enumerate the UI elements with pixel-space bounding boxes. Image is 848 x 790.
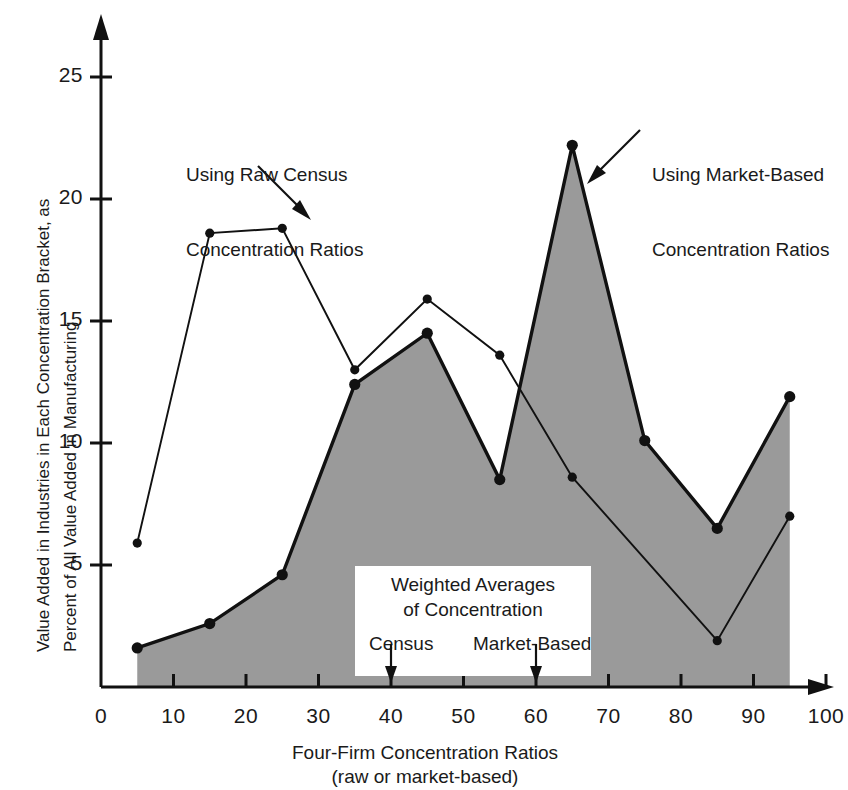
inset-marker-label-market: Market-Based [473,633,591,655]
inset-title-line2: of Concentration [355,597,591,622]
x-tick-label-100: 100 [796,704,848,728]
market-annotation-line1: Using Market-Based [652,162,829,187]
data-point [713,636,722,645]
data-point [784,391,795,402]
census-annotation-line1: Using Raw Census [186,162,363,187]
data-point [785,512,794,521]
y-tick-label-25: 25 [39,63,83,87]
y-tick-label-20: 20 [39,185,83,209]
y-tick-label-10: 10 [39,429,83,453]
data-point [277,569,288,580]
x-tick-label-70: 70 [579,704,639,728]
x-tick-label-90: 90 [724,704,784,728]
market-annotation-arrow [587,130,640,184]
data-point [712,523,723,534]
y-tick-label-5: 5 [39,551,83,575]
market-annotation: Using Market-Based Concentration Ratios [652,112,829,312]
inset-title-line1: Weighted Averages [355,572,591,597]
data-point [495,351,504,360]
data-point [349,379,360,390]
data-point [132,642,143,653]
census-annotation-line2: Concentration Ratios [186,237,363,262]
data-point [568,473,577,482]
data-point [639,435,650,446]
data-point [133,538,142,547]
chart-figure: Value Added in Industries in Each Concen… [0,0,848,790]
x-tick-label-0: 0 [71,704,131,728]
x-axis-subtitle: (raw or market-based) [180,766,670,788]
inset-marker-label-census: Census [369,633,433,655]
market-annotation-line2: Concentration Ratios [652,237,829,262]
x-tick-label-20: 20 [216,704,276,728]
data-point [204,618,215,629]
x-tick-label-50: 50 [434,704,494,728]
data-point [350,365,359,374]
data-point [423,294,432,303]
x-tick-label-10: 10 [144,704,204,728]
census-annotation: Using Raw Census Concentration Ratios [186,112,363,312]
y-tick-label-15: 15 [39,307,83,331]
data-point [567,140,578,151]
x-tick-label-60: 60 [506,704,566,728]
data-point [422,328,433,339]
weighted-averages-inset: Weighted Averages of Concentration Censu… [355,566,591,676]
x-axis-title: Four-Firm Concentration Ratios [180,742,670,764]
x-tick-label-80: 80 [651,704,711,728]
x-tick-label-40: 40 [361,704,421,728]
x-tick-label-30: 30 [289,704,349,728]
data-point [494,474,505,485]
